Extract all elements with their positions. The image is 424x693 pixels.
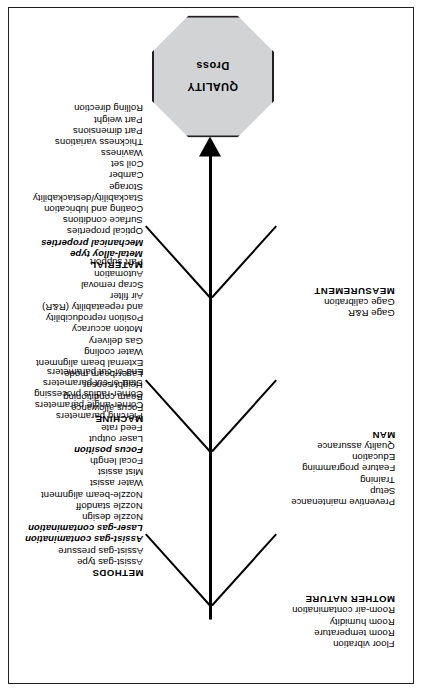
cause-floor-vibration: Floor vibration	[333, 638, 395, 648]
cause-focus-allowance: Focus allowance	[71, 402, 143, 412]
cause-laser-beam-mode: Laser-beam mode	[64, 369, 143, 379]
cause-mist-assist: Mist assist	[98, 467, 143, 477]
cause-laser-gas-contamination: Laser-gas contamination	[28, 523, 143, 533]
category-man: Preventive maintenance Setup Training Fe…	[277, 428, 395, 506]
cause-education: Education	[352, 452, 395, 462]
cause-repeatability-rr: and repeatability (R&R)	[42, 302, 143, 312]
cause-coil-set: Coil set	[111, 159, 143, 169]
cause-focus-position: Focus position	[74, 444, 143, 454]
cause-preventive-maintenance: Preventive maintenance	[291, 496, 395, 506]
category-mother-nature: Floor vibration Room temperature Room hu…	[277, 592, 395, 648]
cause-camber: Camber	[109, 170, 143, 180]
cause-mechanical-properties: Mechanical properties	[41, 237, 143, 247]
cause-rolling-direction: Rolling direction	[74, 103, 143, 113]
bone-measurement	[211, 225, 277, 298]
cause-assist-gas-pressure: Assist-gas pressure	[58, 545, 143, 555]
cause-assist-gas-type: Assist-gas type	[77, 556, 143, 566]
fishbone-diagram: METHODS Assist-gas type Assist-gas press…	[9, 8, 413, 683]
cause-beam-conditioning: Beam conditioning	[63, 391, 143, 401]
cause-water-cooling: Water cooling	[84, 346, 143, 356]
cause-optical-properties: Optical properties	[67, 226, 143, 236]
cause-room-temperature: Room temperature	[314, 627, 395, 637]
category-label-methods: METHODS	[92, 567, 143, 577]
diagram-frame: METHODS Assist-gas type Assist-gas press…	[8, 7, 414, 684]
cause-thickness-variations: Thickness variations	[55, 136, 143, 146]
cause-gage-calibration: Gage calibration	[324, 296, 395, 306]
cause-part-dimensions: Part dimensions	[73, 125, 143, 135]
cause-part-weight: Part weight	[94, 114, 143, 124]
cause-gas-delivery: Gas delivery	[89, 335, 143, 345]
bone-mother-nature	[211, 533, 277, 606]
cause-quality-assurance: Quality assurance	[317, 440, 395, 450]
cause-surface-conditions: Surface conditions	[63, 215, 143, 225]
effect-title: QUALITY	[187, 81, 238, 93]
cause-stackability: Stackability/destackability	[33, 192, 143, 202]
category-label-machine: MACHINE	[95, 413, 143, 423]
cause-gage-rr: Gage R&R	[348, 307, 395, 317]
cause-metal-alloy-type: Metal-alloy type	[70, 248, 143, 258]
category-label-measurement: MEASUREMENT	[314, 285, 395, 295]
cause-focal-length: Focal length	[90, 456, 143, 466]
cause-nozzle-standoff: Nozzle standoff	[76, 500, 143, 510]
cause-external-beam-alignment: External beam alignment	[36, 357, 143, 367]
cause-air-filter: Air filter	[110, 290, 143, 300]
cause-coating-and-lubrication: Coating and lubrication	[44, 203, 143, 213]
category-measurement: Gage R&R Gage calibration MEASUREMENT	[277, 283, 395, 317]
category-material: MATERIAL Metal-alloy type Mechanical pro…	[31, 101, 143, 269]
bone-material	[145, 225, 211, 298]
cause-motion-accuracy: Motion accuracy	[72, 324, 143, 334]
category-label-material: MATERIAL	[90, 259, 143, 269]
cause-assist-gas-contamination: Assist-gas contamination	[25, 534, 143, 544]
effect-subtitle: Dross	[196, 60, 229, 72]
cause-storage: Storage	[109, 181, 143, 191]
cause-room-humidity: Room humidity	[330, 616, 395, 626]
cause-training: Training	[360, 474, 395, 484]
category-label-man: MAN	[372, 429, 395, 439]
cause-nozzle-beam-alignment: Nozzle-beam alignment	[41, 489, 143, 499]
fishbone-spine	[209, 151, 212, 619]
cause-waviness: Waviness	[101, 148, 143, 158]
cause-room-air-contamination: Room-air contamination	[292, 605, 395, 615]
bone-methods	[145, 533, 211, 606]
cause-position-reproducibility: Position reproducibility	[46, 313, 143, 323]
category-label-mother-nature: MOTHER NATURE	[305, 594, 395, 604]
bone-man	[211, 379, 277, 452]
cause-height-sensor: Height sensor	[83, 380, 143, 390]
bone-machine	[145, 379, 211, 452]
cause-feature-programming: Feature programming	[302, 463, 395, 473]
cause-scrap-removal: Scrap removal	[81, 279, 144, 289]
cause-setup: Setup	[370, 485, 395, 495]
spine-arrowhead-icon	[199, 136, 221, 156]
category-machine: MACHINE Focus allowance Beam conditionin…	[31, 255, 143, 423]
cause-laser-output: Laser output	[89, 433, 143, 443]
cause-water-assist: Water assist	[90, 478, 143, 488]
cause-nozzle-design: Nozzle design	[82, 511, 143, 521]
effect-octagon: QUALITY Dross	[152, 15, 274, 137]
